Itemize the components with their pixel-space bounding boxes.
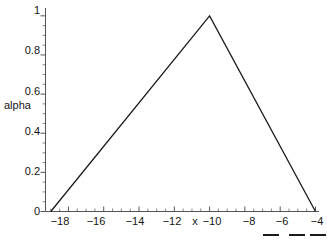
y-axis-title: alpha bbox=[4, 100, 31, 111]
y-tick-label: 0.2 bbox=[0, 166, 40, 177]
x-axis-title: x bbox=[192, 216, 198, 227]
data-series-alpha bbox=[51, 16, 316, 212]
chart-figure: 10.80.60.40.20 −18−16−14−12−10−8−6−4 alp… bbox=[0, 0, 327, 240]
y-axis-ticks bbox=[41, 16, 46, 212]
legend-line-sample bbox=[263, 234, 279, 236]
x-tick-label: −18 bbox=[51, 216, 70, 227]
x-tick-label: −10 bbox=[203, 216, 222, 227]
x-tick-label: −6 bbox=[276, 216, 289, 227]
y-tick-label: 0.6 bbox=[0, 86, 40, 97]
y-tick-label: 0.8 bbox=[0, 45, 40, 56]
x-tick-label: −12 bbox=[163, 216, 182, 227]
y-tick-label: 0 bbox=[0, 206, 40, 217]
x-tick-label: −14 bbox=[126, 216, 145, 227]
x-axis-ticks bbox=[51, 207, 316, 212]
plot-canvas bbox=[0, 0, 327, 240]
x-tick-label: −8 bbox=[243, 216, 256, 227]
legend-line-sample bbox=[310, 234, 326, 236]
legend-line-sample bbox=[289, 234, 305, 236]
y-tick-label: 1 bbox=[0, 5, 40, 16]
y-tick-label: 0.4 bbox=[0, 126, 40, 137]
x-tick-label: −4 bbox=[311, 216, 324, 227]
x-tick-label: −16 bbox=[87, 216, 106, 227]
